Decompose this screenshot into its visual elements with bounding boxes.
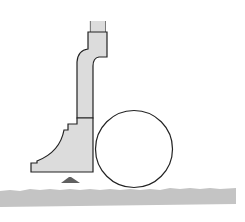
ground-strip <box>0 188 236 207</box>
upper-column <box>77 32 107 118</box>
support-marker <box>61 177 80 183</box>
round-tube <box>96 111 173 188</box>
diagram-canvas <box>0 0 245 222</box>
top-stub-fill <box>91 21 106 32</box>
base-block <box>31 118 93 172</box>
